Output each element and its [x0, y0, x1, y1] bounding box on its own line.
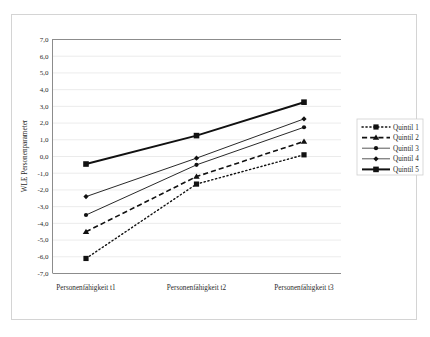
y-axis-title: WLE Personenparameter: [21, 119, 29, 192]
series-markers-group: [83, 99, 307, 261]
data-point-marker: [83, 256, 88, 261]
data-point-marker: [301, 99, 307, 105]
legend-label-4: Quintil 4: [393, 155, 419, 163]
legend-label-1: Quintil 1: [393, 124, 419, 132]
data-point-marker: [83, 161, 89, 167]
data-point-marker: [194, 163, 198, 167]
y-axis-tick-labels: 7,06,05,04,03,02,01,00,0-1,0-2,0-3,0-4,0…: [37, 36, 49, 278]
y-tick-label: 4,0: [40, 86, 49, 94]
y-tick-label: 1,0: [40, 136, 49, 144]
y-tick-label: -6,0: [37, 253, 49, 261]
legend-label-5: Quintil 5: [393, 166, 419, 174]
x-tick-label: Personenfähigkeit t3: [274, 284, 334, 292]
data-point-marker: [301, 138, 307, 143]
y-tick-label: -1,0: [37, 170, 49, 178]
y-tick-label: -3,0: [37, 203, 49, 211]
data-point-marker: [84, 213, 88, 217]
y-tick-label: 6,0: [40, 53, 49, 61]
legend-label-3: Quintil 3: [393, 145, 419, 153]
data-point-marker: [374, 146, 378, 150]
y-tick-label: 2,0: [40, 119, 49, 127]
y-tick-label: -7,0: [37, 270, 49, 278]
y-tick-label: 7,0: [40, 36, 49, 44]
y-tick-label: 3,0: [40, 103, 49, 111]
data-point-marker: [194, 133, 200, 139]
data-point-marker: [301, 152, 306, 157]
data-point-marker: [302, 125, 306, 129]
y-tick-label: 0,0: [40, 153, 49, 161]
legend-label-2: Quintil 2: [393, 134, 419, 142]
data-point-marker: [373, 167, 379, 173]
x-tick-label: Personenfähigkeit t1: [56, 284, 116, 292]
data-point-marker: [194, 181, 199, 186]
x-tick-label: Personenfähigkeit t2: [167, 284, 227, 292]
line-chart: 7,06,05,04,03,02,01,00,0-1,0-2,0-3,0-4,0…: [0, 0, 430, 337]
y-tick-label: -5,0: [37, 236, 49, 244]
series-lines-group: [86, 102, 304, 258]
figure-container: 7,06,05,04,03,02,01,00,0-1,0-2,0-3,0-4,0…: [0, 0, 430, 337]
data-point-marker: [373, 124, 378, 129]
data-point-marker: [301, 116, 306, 121]
series-line-3: [86, 127, 304, 215]
y-tick-label: -2,0: [37, 186, 49, 194]
y-tick-label: -4,0: [37, 220, 49, 228]
x-axis-category-labels: Personenfähigkeit t1Personenfähigkeit t2…: [56, 284, 334, 292]
data-point-marker: [83, 194, 88, 199]
y-tick-label: 5,0: [40, 69, 49, 77]
